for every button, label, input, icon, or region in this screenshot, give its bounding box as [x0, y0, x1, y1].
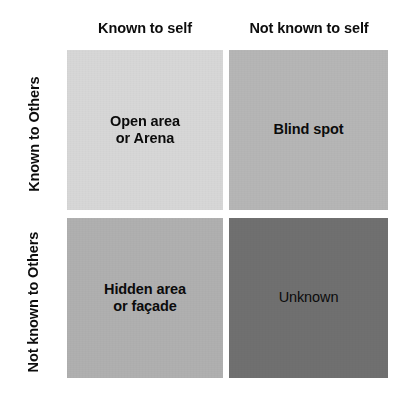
- quadrant-grid: Open area or Arena Blind spot Hidden are…: [67, 50, 388, 378]
- quadrant-open-area-label: Open area or Arena: [110, 113, 180, 147]
- quadrant-unknown-label: Unknown: [279, 289, 339, 306]
- quadrant-hidden-area[interactable]: Hidden area or façade: [67, 218, 223, 378]
- quadrant-hidden-area-label: Hidden area or façade: [104, 281, 186, 315]
- quadrant-unknown[interactable]: Unknown: [229, 218, 388, 378]
- quadrant-blind-spot[interactable]: Blind spot: [229, 50, 388, 210]
- row-header-not-known-to-others: Not known to Others: [0, 226, 67, 378]
- quadrant-blind-spot-label: Blind spot: [274, 121, 344, 138]
- johari-window-diagram: Known to self Not known to self Known to…: [0, 0, 406, 397]
- column-header-not-known-to-self: Not known to self: [229, 17, 389, 39]
- quadrant-open-area[interactable]: Open area or Arena: [67, 50, 223, 210]
- row-header-not-known-to-others-label: Not known to Others: [25, 232, 41, 373]
- row-header-known-to-others: Known to Others: [0, 50, 67, 218]
- row-header-known-to-others-label: Known to Others: [25, 76, 41, 191]
- column-header-known-to-self: Known to self: [67, 17, 223, 39]
